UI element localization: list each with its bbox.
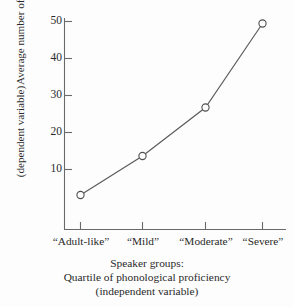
data-point-mild — [139, 152, 146, 159]
x-tick-label-moderate: “Moderate” — [179, 235, 232, 247]
y-tick-marks — [65, 22, 72, 170]
x-tick-label-severe: “Severe” — [243, 235, 284, 247]
line-chart-figure: Average number of phonological deviation… — [0, 0, 294, 307]
data-point-moderate — [202, 104, 209, 111]
data-markers — [77, 20, 266, 199]
x-axis-caption-line-3: (independent variable) — [0, 284, 294, 298]
x-tick-label-adult-like: “Adult-like” — [53, 235, 109, 247]
x-axis-caption: Speaker groups: Quartile of phonological… — [0, 256, 294, 299]
data-point-severe — [259, 20, 266, 27]
x-tick-marks — [81, 222, 263, 229]
x-tick-label-mild: “Mild” — [127, 235, 159, 247]
x-axis-caption-line-1: Speaker groups: — [0, 256, 294, 270]
data-point-adult-like — [77, 191, 84, 198]
x-axis-caption-line-2: Quartile of phonological proficiency — [0, 270, 294, 284]
data-line — [81, 24, 263, 196]
